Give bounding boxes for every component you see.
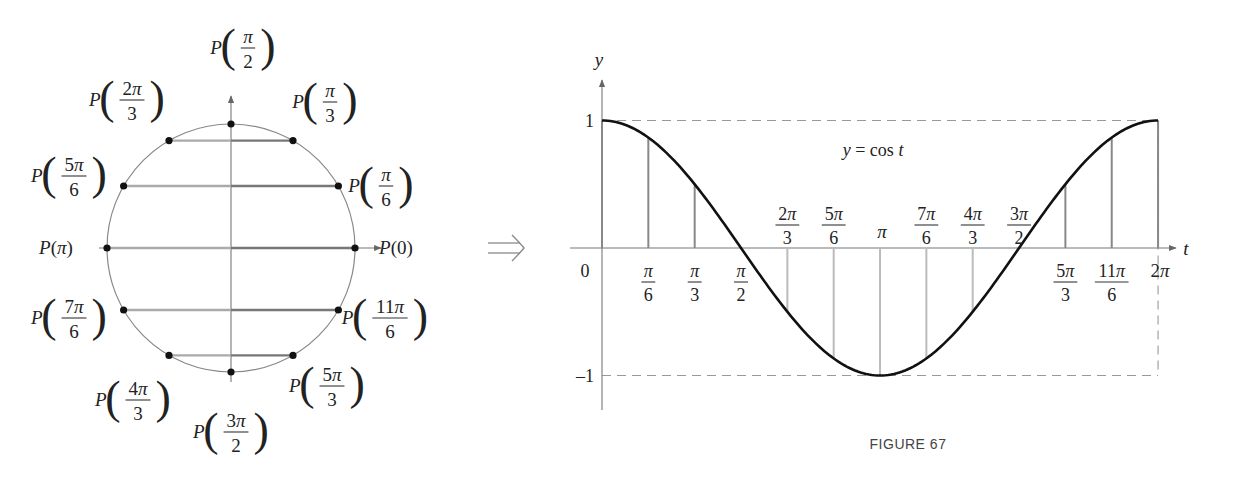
svg-text:π: π [690, 261, 700, 281]
svg-text:7π: 7π [917, 204, 936, 224]
point-dot [335, 182, 342, 189]
point-dot [289, 352, 296, 359]
svg-text:3: 3 [127, 103, 137, 124]
svg-text:11π: 11π [376, 296, 404, 317]
svg-text:π: π [877, 221, 887, 242]
fraction-label: 7π6 [914, 204, 938, 248]
fraction-label: 4π3 [961, 204, 985, 248]
point-label: P()4π3 [94, 372, 171, 424]
y-axis-label: y [593, 49, 604, 70]
svg-text:): ) [350, 358, 365, 409]
svg-text:6: 6 [1107, 285, 1116, 305]
point-dot [289, 137, 296, 144]
point-dot [103, 244, 110, 251]
point-dot [227, 120, 234, 127]
fraction-label: 2π3 [120, 78, 145, 124]
svg-text:): ) [92, 290, 107, 341]
point-dot [227, 368, 234, 375]
svg-text:3: 3 [783, 228, 792, 248]
implies-arrow-icon [488, 235, 524, 261]
origin-label: 0 [581, 261, 590, 281]
point-label: P()π6 [347, 158, 413, 210]
fraction-label: 7π6 [62, 296, 87, 342]
svg-text:(: ( [41, 290, 56, 341]
svg-text:2π: 2π [122, 78, 142, 99]
svg-text:): ) [413, 290, 428, 341]
fraction-label: π2 [241, 26, 255, 72]
fraction-label: π2 [734, 261, 748, 305]
svg-text:): ) [398, 158, 413, 209]
fraction-label: π6 [379, 164, 393, 210]
svg-text:6: 6 [69, 321, 79, 342]
svg-text:6: 6 [644, 285, 653, 305]
svg-text:(: ( [41, 148, 56, 199]
svg-text:π: π [644, 261, 654, 281]
svg-text:3π: 3π [226, 410, 246, 431]
svg-text:11π: 11π [1099, 261, 1126, 281]
fraction-label: 5π6 [62, 154, 87, 200]
point-dot [351, 244, 358, 251]
svg-text:4π: 4π [964, 204, 983, 224]
svg-text:π: π [737, 261, 747, 281]
svg-text:3: 3 [325, 105, 335, 126]
svg-text:5π: 5π [322, 364, 342, 385]
fraction-label: 3π2 [224, 410, 249, 456]
point-label: P(0) [378, 237, 413, 259]
cosine-graph: yt01–1y = cos tπ6π3π22π35π6π7π64π33π25π3… [570, 49, 1189, 410]
svg-text:2: 2 [231, 435, 241, 456]
svg-text:6: 6 [385, 321, 395, 342]
fraction-label: 2π3 [775, 204, 799, 248]
svg-text:5π: 5π [64, 154, 84, 175]
fraction-label: π3 [688, 261, 702, 305]
fraction-label: 3π2 [1007, 204, 1031, 248]
svg-text:π: π [243, 26, 253, 47]
svg-text:): ) [150, 72, 165, 123]
point-label: P()π2 [209, 20, 275, 72]
svg-text:(: ( [352, 290, 367, 341]
t-axis-label: t [1183, 238, 1189, 259]
svg-text:(: ( [203, 404, 218, 455]
point-label: P()3π2 [192, 404, 269, 456]
y-tick-label: –1 [575, 366, 594, 386]
svg-text:π: π [325, 80, 335, 101]
svg-text:2: 2 [737, 285, 746, 305]
point-dot [120, 306, 127, 313]
fraction-label: π3 [323, 80, 337, 126]
svg-text:3: 3 [1061, 285, 1070, 305]
point-dot [165, 352, 172, 359]
point-label: P()2π3 [88, 72, 165, 124]
svg-text:5π: 5π [1056, 261, 1075, 281]
svg-text:(: ( [299, 358, 314, 409]
point-label: P()π3 [291, 74, 357, 126]
svg-text:2π: 2π [778, 204, 797, 224]
svg-text:7π: 7π [64, 296, 84, 317]
fraction-label: 5π6 [822, 204, 846, 248]
point-label: P()5π6 [30, 148, 107, 200]
fraction-label: 11π6 [372, 296, 407, 342]
svg-text:(: ( [99, 72, 114, 123]
y-tick-label: 1 [585, 111, 594, 131]
svg-text:): ) [254, 404, 269, 455]
svg-text:6: 6 [922, 228, 931, 248]
svg-text:2: 2 [243, 51, 253, 72]
svg-text:P(π): P(π) [38, 237, 73, 259]
svg-text:P(0): P(0) [378, 237, 413, 259]
svg-text:6: 6 [381, 189, 391, 210]
point-dot [120, 182, 127, 189]
fraction-label: 4π3 [126, 378, 151, 424]
point-label: P()7π6 [30, 290, 107, 342]
svg-text:3π: 3π [1010, 204, 1029, 224]
fraction-label: 5π3 [1053, 261, 1077, 305]
point-dot [165, 137, 172, 144]
svg-text:6: 6 [829, 228, 838, 248]
fraction-label: 5π3 [320, 364, 345, 410]
fraction-label: π6 [641, 261, 655, 305]
unit-circle-diagram: P(0)P()π6P()π3P()π2P()2π3P()5π6P(π)P()7π… [30, 20, 428, 456]
svg-text:2π: 2π [1151, 260, 1171, 281]
svg-text:): ) [92, 148, 107, 199]
svg-text:4π: 4π [128, 378, 148, 399]
svg-text:): ) [342, 74, 357, 125]
svg-text:(: ( [220, 20, 235, 71]
svg-text:2: 2 [1015, 228, 1024, 248]
svg-text:3: 3 [133, 403, 143, 424]
